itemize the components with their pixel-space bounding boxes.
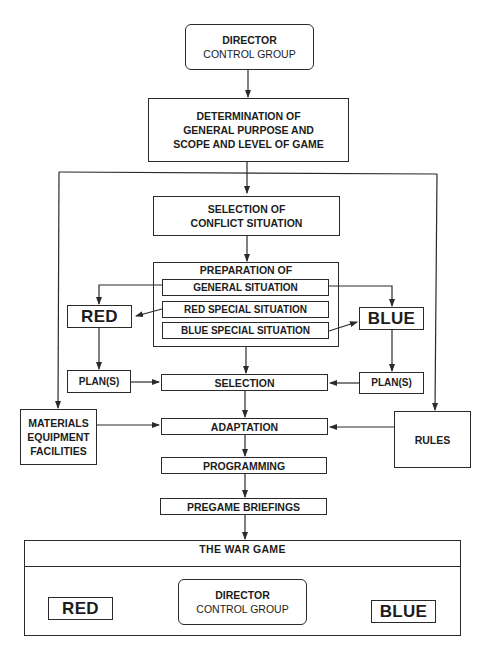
conflict-line-1: SELECTION OF [208, 202, 286, 216]
preparation-title: PREPARATION OF [153, 264, 339, 276]
materials-line-2: EQUIPMENT [27, 430, 89, 444]
pregame-briefings-box: PREGAME BRIEFINGS [160, 498, 327, 515]
conflict-line-2: CONFLICT SITUATION [191, 216, 303, 230]
determination-line-2: GENERAL PURPOSE AND [183, 123, 314, 137]
programming-box: PROGRAMMING [161, 457, 327, 474]
war-game-header-divider [24, 566, 461, 567]
director-control-group-box: DIRECTOR CONTROL GROUP [185, 24, 314, 70]
determination-line-3: SCOPE AND LEVEL OF GAME [173, 137, 324, 151]
director-label: DIRECTOR [222, 33, 277, 47]
war-game-title: THE WAR GAME [24, 543, 461, 555]
determination-line-1: DETERMINATION OF [196, 109, 300, 123]
materials-box: MATERIALS EQUIPMENT FACILITIES [20, 409, 97, 465]
red-team-box: RED [67, 305, 132, 328]
war-game-control-group-label: CONTROL GROUP [196, 602, 288, 616]
war-game-blue-box: BLUE [371, 600, 436, 623]
blue-plans-box: PLAN(S) [359, 372, 424, 394]
conflict-selection-box: SELECTION OF CONFLICT SITUATION [153, 196, 340, 236]
red-special-situation-box: RED SPECIAL SITUATION [162, 301, 329, 318]
war-game-red-box: RED [48, 597, 113, 620]
war-game-director-box: DIRECTOR CONTROL GROUP [178, 579, 307, 625]
rules-box: RULES [394, 411, 471, 468]
general-situation-box: GENERAL SITUATION [162, 279, 329, 296]
control-group-label: CONTROL GROUP [203, 47, 295, 61]
determination-box: DETERMINATION OF GENERAL PURPOSE AND SCO… [148, 98, 349, 162]
materials-line-3: FACILITIES [30, 444, 87, 458]
selection-box: SELECTION [161, 374, 328, 391]
red-plans-box: PLAN(S) [67, 370, 131, 393]
blue-special-situation-box: BLUE SPECIAL SITUATION [162, 322, 329, 339]
materials-line-1: MATERIALS [28, 416, 88, 430]
blue-team-box: BLUE [359, 307, 424, 330]
war-game-director-label: DIRECTOR [215, 588, 270, 602]
adaptation-box: ADAPTATION [161, 418, 328, 435]
